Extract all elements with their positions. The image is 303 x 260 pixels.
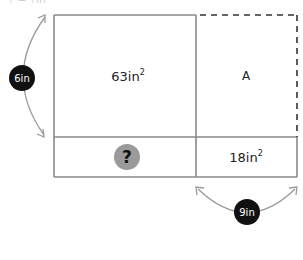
- region-a-label: A: [236, 70, 256, 82]
- unknown-area-question-icon: ?: [114, 144, 140, 170]
- height-dimension-badge: 6in: [9, 65, 35, 91]
- width-dimension-badge: 9in: [234, 199, 260, 225]
- top-left-area-label: 63in2: [98, 70, 158, 83]
- bottom-right-area-label: 18in2: [216, 151, 276, 164]
- diagram-lines: [0, 0, 303, 260]
- area-diagram: ? = ?in² 63in2 A ?: [0, 0, 303, 260]
